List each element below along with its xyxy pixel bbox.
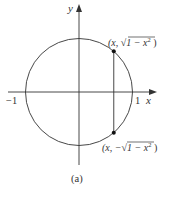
tick-label-pos-one: 1 <box>135 95 140 106</box>
upper-label-radicand: 1 − x <box>126 37 148 48</box>
lower-point <box>112 131 116 135</box>
svg-text:(x, √1 − x2 ): (x, √1 − x2 ) <box>108 36 157 49</box>
y-axis-label: y <box>67 2 73 14</box>
x-axis-label: x <box>145 94 151 106</box>
lower-label-radicand: 1 − x <box>127 142 149 153</box>
upper-label-suffix: ) <box>151 37 157 49</box>
unit-circle-diagram: y x −1 1 (x, √1 − x2 ) (x, −√1 − x2 ) (a… <box>0 0 170 201</box>
upper-point <box>112 49 116 53</box>
upper-label-prefix: (x, <box>108 37 121 49</box>
svg-text:(x, −√1 − x2 ): (x, −√1 − x2 ) <box>102 141 157 154</box>
y-axis-arrow-icon <box>76 4 82 12</box>
lower-label-suffix: ) <box>151 142 157 154</box>
tick-label-neg-one: −1 <box>6 95 17 106</box>
figure-caption: (a) <box>71 173 83 185</box>
upper-point-label: (x, √1 − x2 ) <box>108 36 157 49</box>
lower-label-prefix: (x, − <box>102 142 122 154</box>
lower-point-label: (x, −√1 − x2 ) <box>102 141 157 154</box>
